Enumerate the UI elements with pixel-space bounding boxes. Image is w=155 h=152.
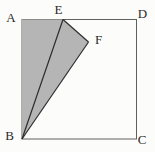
vertex-label-C: C <box>138 132 147 147</box>
vertex-label-D: D <box>138 6 147 21</box>
geometry-figure: A B C D E F <box>0 0 155 152</box>
diagram-canvas: A B C D E F <box>0 0 155 152</box>
vertex-label-E: E <box>55 2 63 17</box>
vertex-label-F: F <box>95 32 102 47</box>
vertex-label-B: B <box>5 128 14 143</box>
shaded-region <box>22 20 89 140</box>
vertex-label-A: A <box>6 10 16 25</box>
